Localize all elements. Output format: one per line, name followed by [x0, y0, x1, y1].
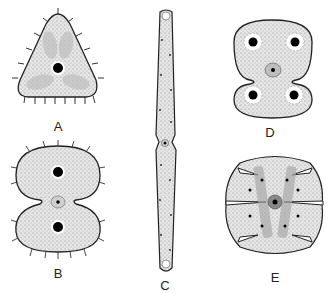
panel-label-a: A [48, 119, 68, 134]
panel-a-cell [12, 8, 104, 104]
panel-e-cell [226, 157, 323, 254]
panel-d-cell [234, 20, 312, 118]
diagram-canvas [0, 0, 330, 293]
panel-c-cell [156, 10, 176, 271]
panel-label-e: E [265, 270, 285, 285]
panel-label-d: D [260, 125, 280, 140]
panel-b-cell [11, 140, 105, 259]
pyrenoid-icon [53, 63, 63, 73]
panel-label-c: C [155, 278, 175, 293]
panel-label-b: B [48, 266, 68, 281]
